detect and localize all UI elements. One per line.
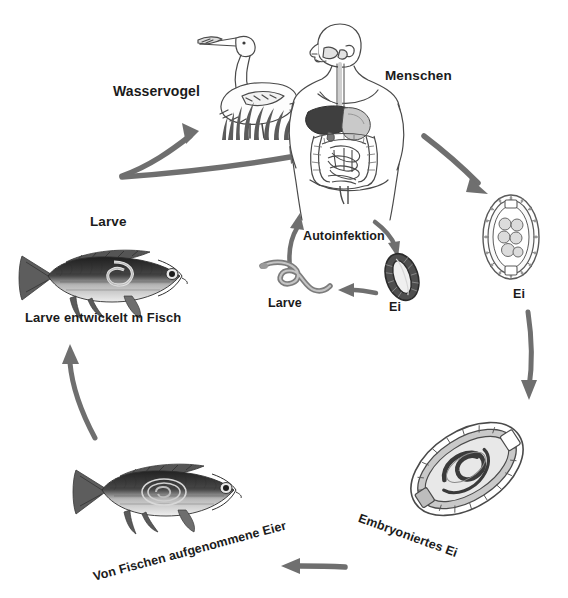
egg-unembryonated-illustration — [480, 192, 542, 282]
label-larve-entwickelt-im-fisch: Larve entwickelt m Fisch — [25, 311, 181, 324]
carp-fish-illustration — [68, 452, 258, 542]
label-menschen: Menschen — [385, 69, 452, 83]
label-larve-zentrum: Larve — [268, 297, 302, 310]
egg-embryonated-illustration — [400, 408, 534, 530]
arrow-center-egg-to-larva — [338, 283, 376, 297]
arrow-fish-to-waterbird — [122, 123, 199, 176]
arrow-human-to-egg — [424, 136, 488, 194]
arrow-egg-to-embryonated — [521, 312, 537, 400]
human-digestive-system-illustration — [288, 20, 410, 222]
label-wasservogel: Wasservogel — [113, 84, 200, 98]
label-ei-rechts: Ei — [513, 288, 525, 301]
label-autoinfektion: Autoinfektion — [303, 230, 385, 243]
arrow-fish-to-larva-fish — [62, 344, 95, 438]
larva-worm-illustration — [258, 252, 338, 302]
life-cycle-diagram: Wasservogel Menschen Larve Larve entwick… — [0, 0, 568, 598]
label-larve-fisch-top: Larve — [90, 215, 127, 229]
egg-proglottid-illustration — [378, 248, 426, 306]
arrow-embryonated-to-fish — [281, 558, 345, 574]
label-ei-zentrum: Ei — [389, 301, 401, 314]
